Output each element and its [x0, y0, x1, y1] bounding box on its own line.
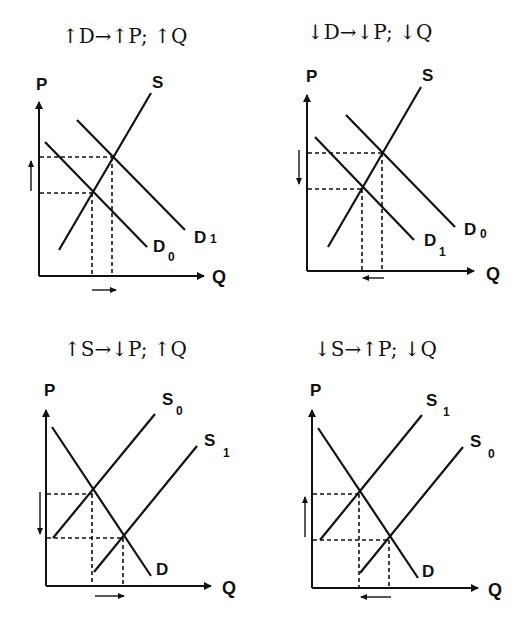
curve-label-s1: S [426, 391, 437, 410]
curve-label-d0-sub: 0 [480, 227, 487, 241]
supply-curve-s1 [320, 415, 422, 540]
q-axis-label: Q [212, 267, 226, 287]
curve-label-s0-sub: 0 [176, 404, 183, 418]
curve-label-s: S [422, 66, 433, 85]
curve-label-d0: D [153, 237, 165, 256]
p-axis-label: P [306, 67, 317, 86]
q-axis-label: Q [486, 264, 500, 284]
p-axis-label: P [44, 381, 55, 400]
chart-demand-increase: P Q S D 0 D 1 [31, 73, 226, 290]
curve-label-d: D [156, 560, 168, 579]
curve-label-s1-sub: 1 [443, 405, 450, 419]
curve-label-d: D [422, 562, 434, 581]
q-axis-label: Q [222, 578, 236, 598]
demand-curve-d1 [77, 120, 185, 230]
q-axis-label: Q [488, 580, 502, 600]
chart-demand-decrease: P Q S D 1 D 0 [299, 66, 500, 284]
curve-label-d1: D [194, 228, 206, 247]
supply-curve-s0 [53, 414, 155, 538]
equilibrium-guides [313, 494, 389, 587]
supply-curve-s1 [94, 446, 197, 572]
curve-label-d0-sub: 0 [168, 250, 175, 264]
chart-supply-decrease: P Q S 1 S 0 D [305, 381, 502, 600]
curve-label-d0: D [464, 220, 476, 239]
curve-label-s0: S [162, 390, 173, 409]
curve-label-s: S [152, 73, 163, 92]
curve-label-s1: S [204, 431, 215, 450]
curve-label-s1-sub: 1 [223, 446, 230, 460]
curve-label-d1-sub: 1 [210, 232, 217, 246]
p-axis-label: P [36, 75, 47, 94]
curve-label-s0: S [470, 432, 481, 451]
demand-curve [52, 427, 151, 576]
curve-label-d1-sub: 1 [439, 245, 446, 259]
demand-curve [318, 428, 418, 578]
chart-supply-increase: P Q S 0 S 1 D [40, 381, 236, 598]
curve-label-s0-sub: 0 [488, 447, 495, 461]
p-axis-label: P [310, 381, 321, 400]
curve-label-d1: D [424, 231, 436, 250]
equilibrium-guides [308, 153, 382, 270]
equilibrium-guides [47, 494, 123, 585]
supply-curve [328, 87, 421, 247]
supply-demand-diagrams: P Q S D 0 D 1 P Q S [0, 0, 532, 619]
supply-curve-s0 [360, 447, 463, 573]
